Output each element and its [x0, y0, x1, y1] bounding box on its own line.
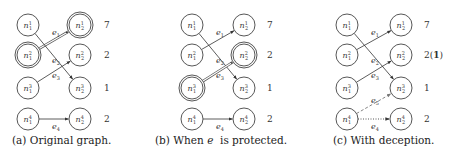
value-label-1: 7 — [424, 20, 430, 30]
node-right-1-label: n12 — [240, 20, 249, 31]
caption-a: (a) Original graph. — [12, 134, 111, 146]
node-left-3: n31 — [336, 77, 358, 99]
node-left-2: n21 — [336, 44, 358, 66]
node-right-4-label: n42 — [240, 114, 249, 125]
node-left-2-label: n21 — [24, 50, 33, 61]
node-left-2-label: n21 — [188, 50, 197, 61]
node-left-1-label: n11 — [343, 20, 352, 31]
edge-label-e1: e1 — [52, 28, 60, 38]
panel-a: e1e2e3e4n11n21n31n41n12n22n32n427212 — [15, 12, 110, 132]
node-right-1: n12 — [67, 12, 93, 38]
node-right-3: n32 — [390, 77, 412, 99]
edge-label-e4: e4 — [52, 122, 60, 132]
edge-label-e2: e2 — [52, 56, 60, 66]
edge-e4-b: e4 — [203, 119, 233, 132]
edge-label-e3: e3 — [216, 71, 224, 81]
node-right-4: n42 — [69, 108, 91, 130]
node-right-2: n22 — [231, 42, 257, 68]
edge-label-e1: e1 — [216, 28, 224, 38]
node-right-2: n22 — [390, 44, 412, 66]
caption-c: (c) With deception. — [333, 134, 434, 146]
value-label-2: 2 — [267, 50, 273, 60]
value-label-3: 1 — [267, 83, 273, 93]
caption-b-prefix: (b) When — [155, 134, 207, 146]
node-right-4: n42 — [233, 108, 255, 130]
node-left-1: n11 — [336, 14, 358, 36]
node-left-4-label: n41 — [24, 114, 33, 125]
value-label-2: 2(1) — [424, 50, 443, 60]
edge-label-e2: e2 — [371, 56, 379, 66]
node-left-3-label: n31 — [24, 83, 33, 94]
node-right-3-label: n32 — [76, 83, 85, 94]
node-right-3-label: n32 — [397, 83, 406, 94]
edge-e4-a: e4 — [39, 119, 69, 132]
node-right-1-label: n12 — [397, 20, 406, 31]
value-label-2: 2 — [104, 50, 110, 60]
node-right-2-label: n22 — [240, 50, 249, 61]
node-right-4-label: n42 — [397, 114, 406, 125]
node-right-3-label: n32 — [240, 83, 249, 94]
value-label-3: 1 — [424, 83, 430, 93]
node-left-2-label: n21 — [343, 50, 352, 61]
caption-b: (b) When e is protected. — [155, 134, 287, 146]
node-left-4: n41 — [17, 108, 39, 130]
node-left-4-label: n41 — [188, 114, 197, 125]
node-left-4: n41 — [181, 108, 203, 130]
value-label-1: 7 — [104, 20, 110, 30]
node-right-2: n22 — [69, 44, 91, 66]
value-label-4: 2 — [267, 114, 273, 124]
node-right-3: n32 — [233, 77, 255, 99]
node-right-2-label: n22 — [397, 50, 406, 61]
edge-e4-c: e4 — [358, 119, 390, 132]
value-label-4: 2 — [424, 114, 430, 124]
node-left-3: n31 — [179, 75, 205, 101]
edge-label-e3: e3 — [52, 71, 60, 81]
node-left-1: n11 — [17, 14, 39, 36]
edge-label-e4: e4 — [216, 122, 224, 132]
edge-e3-b: e3 — [203, 62, 233, 81]
node-left-2: n21 — [15, 42, 41, 68]
node-left-2: n21 — [181, 44, 203, 66]
edge-label-e1: e1 — [371, 28, 379, 38]
node-left-3: n31 — [17, 77, 39, 99]
node-right-1: n12 — [390, 14, 412, 36]
value-label-3: 1 — [104, 83, 110, 93]
caption-c-text: (c) With deception. — [333, 134, 434, 146]
node-right-1-label: n12 — [76, 20, 85, 31]
edge-e1-b: e1 — [202, 28, 235, 50]
node-right-3: n32 — [69, 77, 91, 99]
value-label-4: 2 — [104, 114, 110, 124]
node-right-4-label: n42 — [76, 114, 85, 125]
node-right-4: n42 — [390, 108, 412, 130]
node-right-1: n12 — [233, 14, 255, 36]
edge-label-e4: e4 — [371, 122, 379, 132]
node-left-4: n41 — [336, 108, 358, 130]
caption-a-text: (a) Original graph. — [12, 134, 111, 146]
panel-c: e1e2e3e4e5n11n21n31n41n12n22n32n4272(1)1… — [336, 14, 443, 132]
node-left-1-label: n11 — [188, 20, 197, 31]
edge-label-e5: e5 — [371, 96, 379, 106]
panel-b: e1e2e3e4n11n21n31n41n12n22n32n427212 — [179, 14, 273, 132]
edge-e5-c: e5 — [357, 94, 391, 114]
node-left-1: n11 — [181, 14, 203, 36]
node-left-4-label: n41 — [343, 114, 352, 125]
edge-e1-c: e1 — [357, 28, 391, 50]
edge-label-e2: e2 — [216, 56, 224, 66]
node-right-2-label: n22 — [76, 50, 85, 61]
edge-e1-a: e1 — [39, 28, 68, 49]
node-left-1-label: n11 — [24, 20, 33, 31]
value-label-1: 7 — [267, 20, 273, 30]
node-left-3-label: n31 — [188, 83, 197, 94]
edge-label-e3: e3 — [371, 71, 379, 81]
node-left-3-label: n31 — [343, 83, 352, 94]
caption-b-suffix: is protected. — [213, 134, 287, 146]
